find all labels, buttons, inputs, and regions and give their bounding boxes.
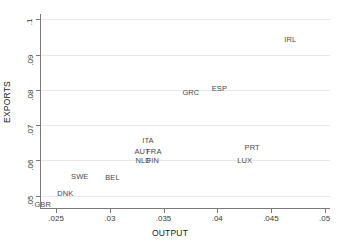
x-axis-tick-1 (110, 209, 111, 213)
x-axis-tick-label-0: .025 (36, 214, 76, 223)
data-point-label-bel: BEL (105, 172, 119, 181)
data-point-label-dnk: DNK (57, 189, 73, 198)
data-point-label-lux: LUX (237, 156, 252, 165)
y-axis-line (40, 14, 41, 208)
data-point-label-fin: FIN (147, 156, 159, 165)
y-axis-title: EXPORTS (2, 62, 12, 142)
x-axis-tick-5 (325, 209, 326, 213)
x-axis-tick-4 (271, 209, 272, 213)
y-axis-tick-0 (36, 196, 40, 197)
x-axis-tick-label-1: .03 (90, 214, 130, 223)
data-point-label-ita: ITA (142, 136, 153, 145)
x-axis-title: OUTPUT (0, 228, 340, 238)
gridline-y-5 (40, 19, 330, 20)
plot-area: GBR DNK SWE BEL NLD FIN AUT FRA ITA GRC … (40, 14, 330, 208)
x-axis-tick-label-2: .035 (144, 214, 184, 223)
x-axis-tick-label-3: .04 (197, 214, 237, 223)
y-axis-tick-label-2: .07 (26, 125, 35, 136)
gridline-y-4 (40, 55, 330, 56)
y-axis-tick-label-3: .08 (26, 89, 35, 100)
data-point-label-irl: IRL (284, 34, 296, 43)
x-axis-tick-0 (56, 209, 57, 213)
gridline-y-1 (40, 160, 330, 161)
data-point-label-swe: SWE (71, 171, 88, 180)
y-axis-tick-label-5: .1 (26, 19, 35, 26)
gridline-y-0 (40, 196, 330, 197)
y-axis-tick-3 (36, 90, 40, 91)
x-axis-line (40, 208, 330, 209)
x-axis-tick-label-5: .05 (305, 214, 340, 223)
y-axis-tick-1 (36, 160, 40, 161)
y-axis-tick-2 (36, 125, 40, 126)
x-axis-tick-3 (217, 209, 218, 213)
y-axis-tick-4 (36, 55, 40, 56)
y-axis-tick-5 (36, 19, 40, 20)
data-point-label-prt: PRT (245, 142, 260, 151)
x-axis-tick-label-4: .045 (251, 214, 291, 223)
y-axis-tick-label-0: .05 (26, 195, 35, 206)
y-axis-tick-label-1: .06 (26, 160, 35, 171)
scatter-plot-figure: GBR DNK SWE BEL NLD FIN AUT FRA ITA GRC … (0, 0, 340, 251)
y-axis-tick-label-4: .09 (26, 54, 35, 65)
gridline-y-2 (40, 125, 330, 126)
data-point-label-gbr: GBR (34, 199, 51, 208)
data-point-label-grc: GRC (182, 87, 199, 96)
data-point-label-fra: FRA (146, 147, 161, 156)
data-point-label-esp: ESP (212, 83, 227, 92)
x-axis-tick-2 (164, 209, 165, 213)
